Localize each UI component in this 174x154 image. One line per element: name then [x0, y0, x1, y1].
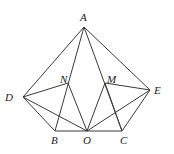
label-N: N: [59, 73, 68, 85]
segment-MO: [87, 83, 105, 131]
segment-EO: [87, 90, 150, 131]
label-M: M: [106, 73, 117, 85]
segment-AE: [84, 27, 150, 90]
segment-MC: [105, 83, 122, 131]
label-C: C: [120, 134, 128, 146]
segment-DB: [23, 97, 55, 131]
label-E: E: [153, 84, 161, 96]
label-D: D: [4, 91, 13, 103]
geometry-diagram: A D E N M B O C: [0, 0, 174, 154]
label-A: A: [79, 11, 87, 23]
segments: [23, 27, 150, 131]
label-O: O: [83, 134, 91, 146]
segment-AD: [23, 27, 84, 97]
segment-NO: [68, 83, 87, 131]
segment-EC: [122, 90, 150, 131]
label-B: B: [51, 134, 58, 146]
segment-DO: [23, 97, 87, 131]
